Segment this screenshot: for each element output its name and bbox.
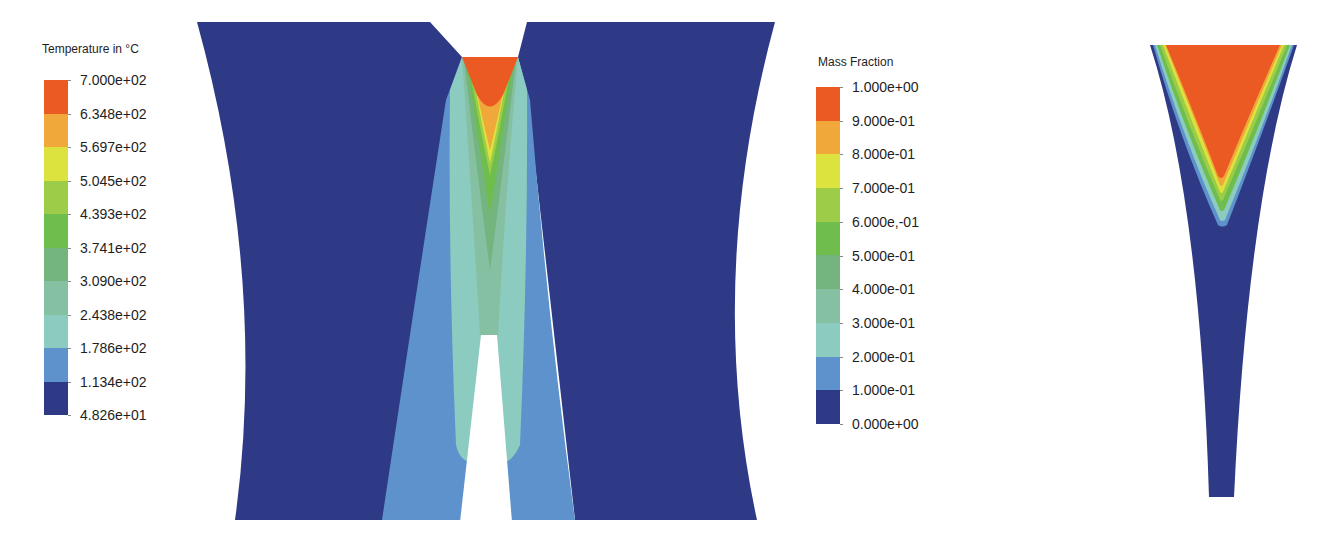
mass-fraction-contour-plot [0,0,1326,549]
